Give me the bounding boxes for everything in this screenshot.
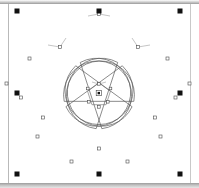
pentagon-node-markers-group[interactable] <box>87 83 112 109</box>
handle-bottom-center[interactable] <box>97 172 102 177</box>
node-upper-left[interactable] <box>59 46 62 49</box>
node-left-upper[interactable] <box>5 82 8 85</box>
node-upper-left-outer[interactable] <box>28 57 31 60</box>
handle-bottom-right[interactable] <box>178 172 183 177</box>
node-bottom-left[interactable] <box>70 160 73 163</box>
node-upper-right-outer[interactable] <box>166 57 169 60</box>
vector-artwork-layer[interactable] <box>0 0 199 188</box>
star-node-bottom[interactable] <box>98 106 101 109</box>
handle-top-left[interactable] <box>15 9 20 14</box>
rotation-center-marker-dot <box>98 92 100 94</box>
node-upper-right[interactable] <box>137 46 140 49</box>
star-node-lower-right[interactable] <box>107 101 110 104</box>
node-bottom-right[interactable] <box>126 160 129 163</box>
star-node-upper-left[interactable] <box>87 87 90 90</box>
handle-top-center[interactable] <box>97 9 102 14</box>
tangent-handles-group[interactable] <box>48 14 150 84</box>
node-right-upper[interactable] <box>188 82 191 85</box>
flower-node-markers-group[interactable] <box>5 12 191 163</box>
tangent-upper-right-a-line[interactable] <box>138 45 150 47</box>
node-left-mid[interactable] <box>20 96 23 99</box>
node-left-lower[interactable] <box>42 116 45 119</box>
node-right-lower[interactable] <box>154 116 157 119</box>
star-node-upper-right[interactable] <box>109 87 112 90</box>
node-bottom-center[interactable] <box>97 147 100 150</box>
handle-middle-right[interactable] <box>178 91 183 96</box>
tangent-top-right-line[interactable] <box>99 14 110 16</box>
node-left-bottom[interactable] <box>36 135 39 138</box>
handle-top-right[interactable] <box>178 9 183 14</box>
node-right-mid[interactable] <box>174 96 177 99</box>
star-node-lower-left[interactable] <box>88 101 91 104</box>
node-right-bottom[interactable] <box>159 135 162 138</box>
handle-bottom-left[interactable] <box>15 172 20 177</box>
handle-middle-left[interactable] <box>15 91 20 96</box>
star-node-top[interactable] <box>98 83 101 86</box>
editor-canvas-root <box>0 0 199 188</box>
